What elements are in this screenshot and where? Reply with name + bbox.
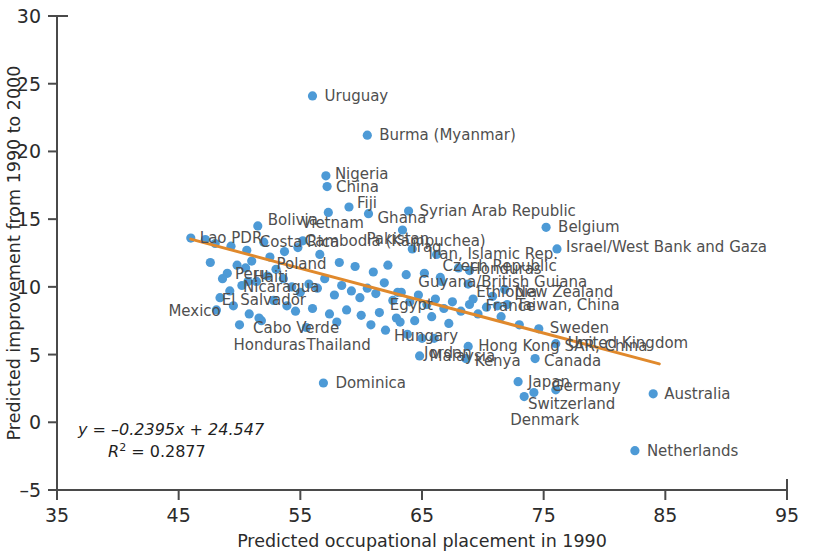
- point-label: Syrian Arab Republic: [420, 202, 576, 220]
- data-point: [235, 320, 244, 329]
- point-label: United Kingdom: [568, 334, 688, 352]
- data-point: [342, 305, 351, 314]
- point-labels-layer: UruguayBurma (Myanmar)NigeriaChinaFijiSy…: [168, 87, 767, 460]
- data-point: [323, 182, 332, 191]
- point-label: Nicaragua: [243, 278, 319, 296]
- point-label: Dominica: [335, 374, 406, 392]
- data-point: [381, 326, 390, 335]
- y-axis-tick-label: 0: [29, 411, 41, 433]
- data-point: [308, 304, 317, 313]
- data-point: [402, 270, 411, 279]
- x-axis-tick-label: 55: [288, 504, 312, 526]
- regression-equation: y = –0.2395x + 24.547: [77, 420, 265, 439]
- data-point: [218, 274, 227, 283]
- data-point: [319, 378, 328, 387]
- y-axis-tick-label: 5: [29, 344, 41, 366]
- point-label: Ghana: [378, 209, 427, 227]
- data-point: [375, 308, 384, 317]
- point-label: Belgium: [558, 218, 620, 236]
- point-label: Burma (Myanmar): [379, 126, 515, 144]
- data-point: [415, 351, 424, 360]
- r-squared-annotation: R2 = 0.2877: [108, 441, 206, 461]
- data-point: [410, 316, 419, 325]
- point-label: Fiji: [357, 194, 377, 212]
- x-axis-tick-label: 95: [775, 504, 799, 526]
- data-point: [542, 223, 551, 232]
- data-point: [369, 267, 378, 276]
- point-label: Australia: [664, 385, 730, 403]
- annotations-layer: y = –0.2395x + 24.547R2 = 0.2877: [77, 420, 265, 461]
- x-axis-tick-label: 75: [532, 504, 556, 526]
- point-label: Cabo Verde: [253, 319, 339, 337]
- data-point: [448, 297, 457, 306]
- point-label: Denmark: [510, 411, 579, 429]
- point-label: Netherlands: [647, 442, 739, 460]
- data-point: [383, 261, 392, 270]
- point-label: Thailand: [305, 336, 370, 354]
- data-point: [363, 131, 372, 140]
- x-axis-title: Predicted occupational placement in 1990: [237, 531, 607, 551]
- data-point: [366, 320, 375, 329]
- chart-canvas: UruguayBurma (Myanmar)NigeriaChinaFijiSy…: [0, 0, 817, 555]
- point-label: Lao PDR: [200, 229, 263, 247]
- data-point: [630, 446, 639, 455]
- x-axis-tick-label: 35: [45, 504, 69, 526]
- axes-layer: –505101520253035455565758595Predicted oc…: [4, 5, 799, 551]
- point-label: Egypt: [390, 296, 433, 314]
- data-point: [357, 311, 366, 320]
- data-point: [347, 286, 356, 295]
- point-label: Honduras: [234, 336, 306, 354]
- data-point: [335, 258, 344, 267]
- point-label: Kenya: [475, 352, 521, 370]
- y-axis-tick-label: 30: [17, 5, 41, 27]
- data-point: [330, 290, 339, 299]
- y-axis-title: Predicted improvement from 1990 to 2000: [4, 66, 24, 441]
- data-point: [351, 262, 360, 271]
- point-label: France: [485, 297, 535, 315]
- point-label: China: [336, 178, 379, 196]
- point-label: Hungary: [394, 327, 458, 345]
- point-label: Germany: [552, 377, 621, 395]
- x-axis-tick-label: 65: [410, 504, 434, 526]
- point-label: Mexico: [168, 302, 220, 320]
- point-label: Canada: [544, 352, 601, 370]
- data-point: [337, 281, 346, 290]
- data-point: [344, 202, 353, 211]
- data-point: [649, 389, 658, 398]
- x-axis-tick-label: 45: [167, 504, 191, 526]
- data-point: [380, 278, 389, 287]
- data-point: [325, 309, 334, 318]
- point-label: Uruguay: [325, 87, 389, 105]
- scatter-chart: UruguayBurma (Myanmar)NigeriaChinaFijiSy…: [0, 0, 817, 555]
- data-point: [245, 309, 254, 318]
- data-point: [206, 258, 215, 267]
- data-point: [308, 91, 317, 100]
- data-point: [321, 171, 330, 180]
- x-axis-tick-label: 85: [653, 504, 677, 526]
- point-label: Israel/West Bank and Gaza: [566, 238, 767, 256]
- data-point: [396, 318, 405, 327]
- y-axis-tick-label: –5: [19, 479, 41, 501]
- data-point: [355, 293, 364, 302]
- data-point: [514, 377, 523, 386]
- point-label: Vietnam: [301, 214, 364, 232]
